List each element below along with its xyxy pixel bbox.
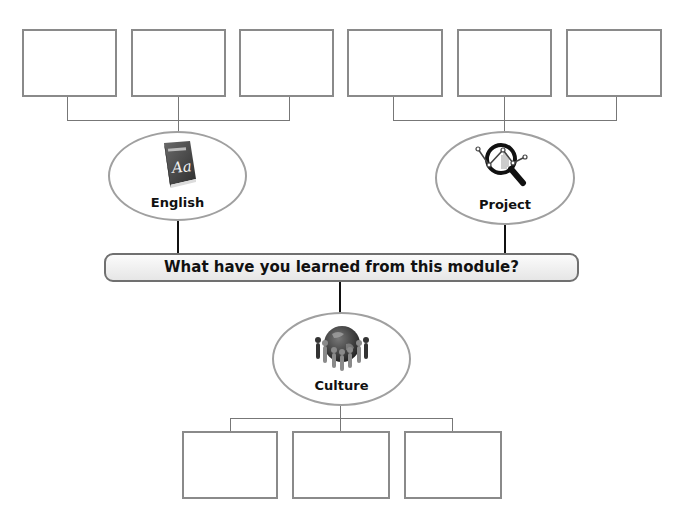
- project-connector-drop-3: [616, 97, 617, 120]
- culture-answer-box-3[interactable]: [404, 431, 502, 499]
- culture-answer-box-1[interactable]: [182, 431, 278, 499]
- english-connector-drop-1: [67, 97, 68, 120]
- project-answer-box-3[interactable]: [566, 29, 662, 97]
- culture-answer-box-2[interactable]: [292, 431, 390, 499]
- english-answer-box-2[interactable]: [131, 29, 226, 97]
- dictionary-book-icon: Aa: [156, 139, 200, 189]
- project-connector-drop-1: [393, 97, 394, 120]
- project-answer-box-2[interactable]: [457, 29, 552, 97]
- magnifier-chart-icon: [475, 141, 535, 191]
- culture-connector-drop-3: [452, 418, 453, 431]
- central-question-banner: What have you learned from this module?: [104, 253, 579, 282]
- project-connector-bar: [393, 120, 617, 121]
- topic-culture: Culture: [272, 312, 411, 406]
- english-answer-box-1[interactable]: [22, 29, 117, 97]
- project-stem: [504, 225, 506, 253]
- english-connector-drop-3: [289, 97, 290, 120]
- project-connector-drop-2: [504, 97, 505, 132]
- topic-culture-label: Culture: [274, 378, 409, 393]
- culture-stem: [339, 282, 341, 313]
- topic-english: Aa English: [108, 131, 247, 221]
- english-connector-bar: [67, 120, 290, 121]
- culture-connector-drop-1: [230, 418, 231, 431]
- english-connector-drop-2: [178, 97, 179, 132]
- topic-project-label: Project: [437, 197, 573, 212]
- english-answer-box-3[interactable]: [239, 29, 334, 97]
- globe-people-icon: [310, 324, 374, 374]
- culture-connector-bar: [230, 418, 453, 419]
- project-answer-box-1[interactable]: [347, 29, 443, 97]
- topic-english-label: English: [110, 195, 245, 210]
- english-stem: [177, 221, 179, 253]
- svg-text:Aa: Aa: [169, 157, 193, 177]
- topic-project: Project: [435, 131, 575, 225]
